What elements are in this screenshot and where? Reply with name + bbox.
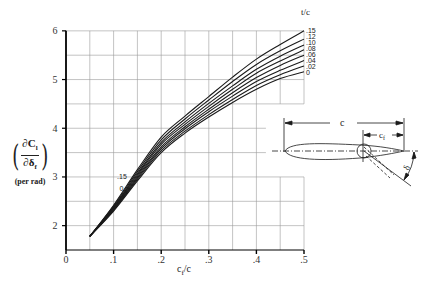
- x-label-tail: /c: [184, 263, 191, 274]
- y-label-numerator: ∂Cl: [21, 137, 38, 156]
- y-label-denominator: ∂δf: [23, 156, 37, 174]
- flap-arrowhead-right: [397, 133, 403, 137]
- x-tick-label: 0: [64, 254, 69, 265]
- chord-label: c: [340, 117, 345, 128]
- x-axis-label: cf/c: [177, 263, 191, 277]
- numerator-text: ∂C: [22, 137, 35, 149]
- denominator-sub: f: [34, 163, 36, 171]
- denominator-text: ∂δ: [23, 156, 34, 168]
- y-tick-label: 6: [53, 25, 58, 36]
- curve-annotation: 0: [120, 185, 124, 192]
- axes: [62, 31, 304, 254]
- legend-title: t/c: [301, 7, 310, 17]
- y-axis-label: ( ∂Cl ∂δf ) (per rad): [2, 137, 58, 186]
- data-curves: [90, 31, 304, 237]
- y-axis-fraction: ( ∂Cl ∂δf ): [10, 137, 51, 174]
- deflection-angle-label: δ: [401, 164, 412, 171]
- curve-annotation: .15: [117, 173, 127, 180]
- x-tick-label: .5: [300, 254, 308, 265]
- airfoil-outline: [285, 144, 404, 160]
- y-tick-label: 5: [53, 74, 58, 85]
- x-tick-label: .3: [205, 254, 213, 265]
- x-tick-label: .2: [157, 254, 165, 265]
- chart-plot: 234560.1.2.3.4.5 .15.12.10.08.06.04.020.…: [0, 0, 428, 288]
- flap-arrowhead-left: [364, 133, 370, 137]
- curve-tc-0: [90, 72, 304, 237]
- deflected-flap-dashed-2: [366, 156, 390, 178]
- flap-chord-label: cf: [379, 130, 385, 141]
- y-tick-label: 4: [53, 123, 58, 134]
- curve-tc-15: [90, 31, 304, 237]
- y-tick-label: 2: [53, 220, 58, 231]
- grid-lines: [66, 31, 304, 250]
- x-tick-label: .4: [253, 254, 261, 265]
- series-end-label: 0: [306, 69, 310, 76]
- right-paren: ): [41, 141, 48, 171]
- numerator-sub: l: [36, 144, 38, 152]
- curve-tc-04: [90, 61, 304, 237]
- x-tick-label: .1: [110, 254, 118, 265]
- curve-tc-12: [90, 39, 304, 236]
- curve-tc-02: [90, 66, 304, 236]
- airfoil-inset-diagram: c cf δ: [272, 117, 418, 186]
- y-axis-units: (per rad): [2, 177, 58, 186]
- arrowhead-left: [285, 121, 292, 125]
- arrowhead-right: [396, 121, 403, 125]
- deflection-arrowhead-bottom: [404, 173, 409, 180]
- left-paren: (: [12, 141, 19, 171]
- deflection-arrowhead-top: [412, 152, 416, 159]
